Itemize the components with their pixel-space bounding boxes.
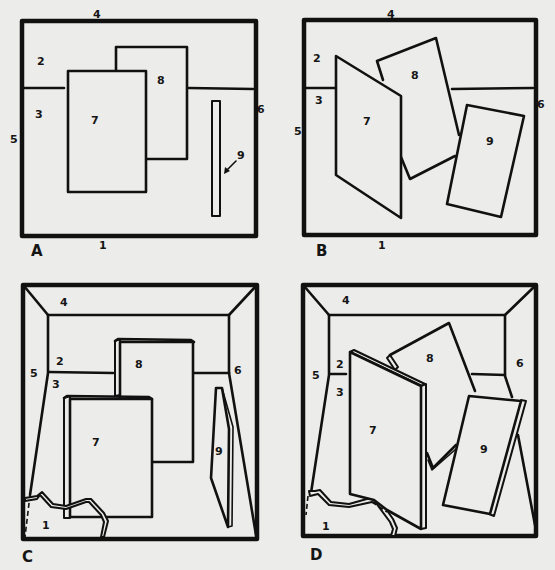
label-5: 5: [312, 369, 320, 382]
label-6: 6: [516, 357, 524, 370]
label-2: 2: [313, 52, 321, 65]
panel-d: 4 2 3 5 6 7 8 9 1 D: [303, 285, 536, 564]
label-1: 1: [99, 239, 107, 252]
label-3: 3: [315, 94, 323, 107]
horizon-line-left: [49, 372, 113, 373]
card-8-bottom: [401, 156, 455, 179]
label-4: 4: [93, 8, 101, 21]
panel-a: 4 2 3 5 6 7 8 9 1 A: [10, 8, 265, 260]
floor-edge-right-upper: [505, 376, 512, 397]
label-9: 9: [215, 445, 223, 458]
label-3: 3: [35, 108, 43, 121]
label-4: 4: [342, 294, 350, 307]
label-8: 8: [135, 358, 143, 371]
panel-c: 4 2 3 5 6 7 8 9 1 C: [22, 285, 257, 566]
label-5: 5: [30, 367, 38, 380]
corner-tl: [24, 286, 48, 315]
label-9: 9: [486, 135, 494, 148]
label-6: 6: [257, 103, 265, 116]
card-9-edge: [212, 101, 220, 216]
label-1: 1: [42, 519, 50, 532]
floor-edge-left: [30, 373, 48, 495]
card-7: [336, 56, 401, 218]
label-5: 5: [10, 133, 18, 146]
label-8: 8: [426, 352, 434, 365]
corner-tl: [304, 286, 329, 315]
card-9: [447, 105, 524, 217]
label-9: 9: [237, 149, 245, 162]
label-7: 7: [369, 424, 377, 437]
card-7: [68, 71, 146, 192]
label-1: 1: [322, 520, 330, 533]
floor-edge-left: [311, 375, 329, 493]
panel-label-b: B: [316, 242, 327, 260]
label-7: 7: [363, 115, 371, 128]
horizon-line-right: [189, 88, 253, 89]
panel-label-c: C: [22, 548, 33, 566]
label-8: 8: [411, 69, 419, 82]
floor-edge-left-hidden: [306, 496, 308, 515]
label-4: 4: [60, 296, 68, 309]
panel-label-d: D: [310, 546, 322, 564]
label-1: 1: [378, 239, 386, 252]
horizon-line-right: [452, 88, 533, 89]
label-6: 6: [537, 98, 545, 111]
label-7: 7: [91, 114, 99, 127]
label-2: 2: [336, 358, 344, 371]
figure: 4 2 3 5 6 7 8 9 1 A 4 2 3 5 6 7 8 9 1 B: [0, 0, 555, 570]
label-2: 2: [56, 355, 64, 368]
label-2: 2: [37, 55, 45, 68]
label-8: 8: [157, 74, 165, 87]
label-7: 7: [92, 436, 100, 449]
label-3: 3: [52, 378, 60, 391]
corner-tr: [505, 286, 535, 315]
label-4: 4: [387, 8, 395, 21]
horizon-line-right: [472, 374, 505, 375]
label-9: 9: [480, 443, 488, 456]
corner-tr: [229, 286, 256, 315]
floor-edge-right: [518, 435, 535, 525]
label-3: 3: [336, 386, 344, 399]
panel-b: 4 2 3 5 6 7 8 9 1 B: [294, 8, 545, 260]
panel-label-a: A: [31, 242, 43, 260]
label-5: 5: [294, 125, 302, 138]
label-6: 6: [234, 364, 242, 377]
